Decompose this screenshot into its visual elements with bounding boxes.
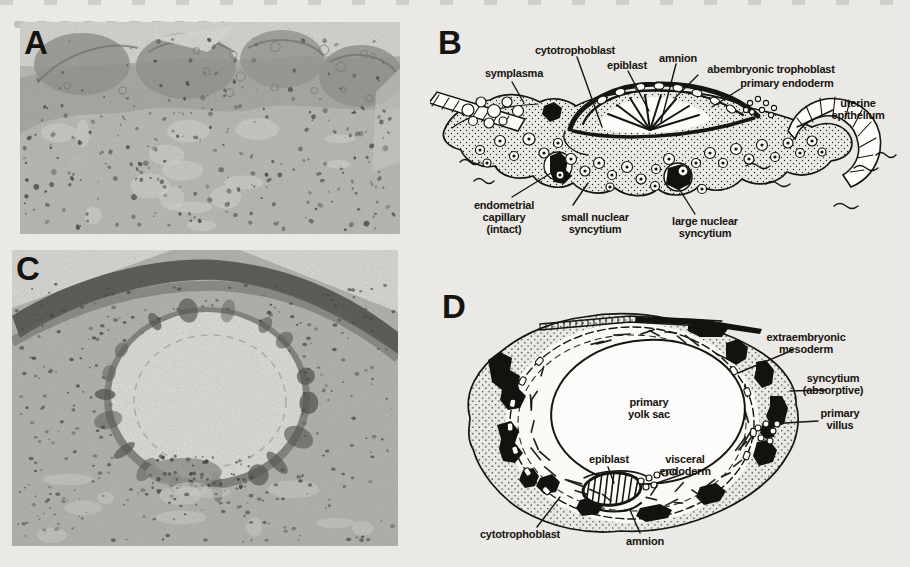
label-primary-endoderm: primary endoderm xyxy=(740,77,833,89)
label-cytotrophoblast-d: cytotrophoblast xyxy=(480,528,560,540)
label-uterine-epithelium: uterine epithelium xyxy=(831,97,884,121)
label-epiblast-b: epiblast xyxy=(607,59,647,71)
panel-a-micrograph xyxy=(20,22,400,234)
figure-page: A B C D symplasma cytotrophoblast epibla… xyxy=(0,0,910,567)
label-abembryonic-trophoblast: abembryonic trophoblast xyxy=(707,63,834,75)
scan-artifact-strip xyxy=(0,0,910,5)
label-primary-yolk-sac: primary yolk sac xyxy=(628,396,670,420)
panel-letter-b: B xyxy=(438,26,462,59)
photo-c-grain xyxy=(12,250,398,546)
photo-a-grain xyxy=(20,22,400,234)
label-cytotrophoblast-b: cytotrophoblast xyxy=(535,44,615,56)
label-endometrial-capillary: endometrial capillary (intact) xyxy=(474,199,534,235)
label-symplasma: symplasma xyxy=(485,67,543,79)
label-amnion-b: amnion xyxy=(659,52,697,64)
label-syncytium-absorptive: syncytium (absorptive) xyxy=(803,372,864,396)
label-epiblast-d: epiblast xyxy=(589,453,629,465)
panel-c-micrograph xyxy=(12,250,398,546)
panel-letter-c: C xyxy=(16,252,40,285)
label-large-nuclear-syncytium: large nuclear syncytium xyxy=(672,215,738,239)
panel-letter-d: D xyxy=(442,290,466,323)
label-extraembryonic-mesoderm: extraembryonic mesoderm xyxy=(766,331,845,355)
panel-letter-a: A xyxy=(24,26,48,59)
label-amnion-d: amnion xyxy=(626,535,664,547)
label-visceral-endoderm: visceral endoderm xyxy=(659,453,711,477)
label-small-nuclear-syncytium: small nuclear syncytium xyxy=(561,211,629,235)
label-primary-villus: primary villus xyxy=(821,407,860,431)
